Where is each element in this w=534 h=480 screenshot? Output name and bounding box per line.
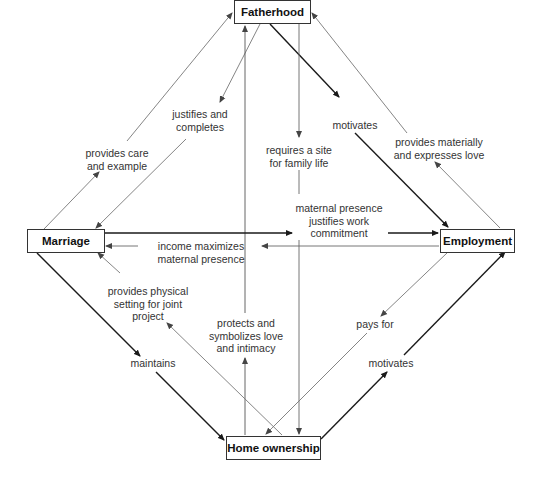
label-motivates-bottom: motivates: [356, 357, 426, 370]
label-pays-for: pays for: [345, 318, 405, 331]
label-provides-physical-setting: provides physical setting for joint proj…: [98, 285, 198, 323]
label-requires-site: requires a site for family life: [254, 144, 344, 169]
node-home-ownership-label: Home ownership: [227, 442, 320, 454]
label-protects-symbolizes: protects and symbolizes love and intimac…: [200, 317, 292, 355]
node-employment-label: Employment: [443, 235, 512, 247]
node-home-ownership: Home ownership: [226, 436, 321, 460]
edge-employment-to-home: [266, 253, 447, 434]
node-marriage-label: Marriage: [42, 235, 90, 247]
node-marriage: Marriage: [27, 229, 105, 253]
edge-home-to-employment: [321, 252, 505, 439]
label-income-maximizes: income maximizes maternal presence: [140, 240, 262, 265]
label-justifies-completes: justifies and completes: [160, 108, 240, 133]
concept-diagram: Fatherhood Marriage Employment Home owne…: [0, 0, 534, 480]
node-employment: Employment: [440, 229, 515, 253]
label-provides-materially: provides materially and expresses love: [384, 136, 494, 161]
node-fatherhood-label: Fatherhood: [241, 6, 304, 18]
node-fatherhood: Fatherhood: [234, 0, 311, 24]
label-maternal-presence-justifies: maternal presence justifies work commitm…: [283, 202, 395, 240]
label-maintains: maintains: [118, 357, 188, 370]
label-motivates-top: motivates: [320, 119, 390, 132]
label-provides-care: provides care and example: [72, 147, 162, 172]
edge-marriage-to-home: [37, 253, 224, 440]
